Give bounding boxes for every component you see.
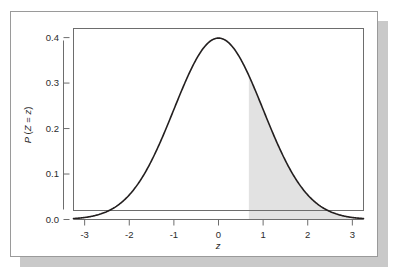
panel-border — [74, 29, 364, 211]
y-tick-label: 0.3 — [46, 77, 59, 88]
x-tick-label: 0 — [216, 229, 221, 240]
y-tick-label: 0.2 — [46, 123, 59, 134]
normal-distribution-chart: 0.00.10.20.30.4 -3-2-10123 z P (Z = z) — [11, 12, 377, 256]
y-tick-label: 0.1 — [46, 168, 59, 179]
x-tick-label: -3 — [80, 229, 88, 240]
x-tick-label: 1 — [260, 229, 265, 240]
shaded-tail-region — [249, 76, 364, 220]
y-axis-ticks: 0.00.10.20.30.4 — [46, 32, 70, 225]
y-axis-title: P (Z = z) — [22, 107, 33, 144]
x-tick-label: -2 — [125, 229, 133, 240]
x-axis-title: z — [215, 240, 221, 251]
y-tick-label: 0.0 — [46, 214, 59, 225]
x-tick-label: 2 — [305, 229, 310, 240]
density-curve — [74, 38, 364, 219]
y-tick-label: 0.4 — [46, 32, 59, 43]
plot-area: 0.00.10.20.30.4 -3-2-10123 z P (Z = z) — [11, 12, 377, 256]
x-tick-label: 3 — [350, 229, 355, 240]
x-axis-ticks: -3-2-10123 — [80, 220, 355, 241]
figure-frame: 0.00.10.20.30.4 -3-2-10123 z P (Z = z) — [10, 11, 378, 257]
y-axis-title-group: P (Z = z) — [22, 107, 33, 144]
x-tick-label: -1 — [170, 229, 178, 240]
figure-root: 0.00.10.20.30.4 -3-2-10123 z P (Z = z) — [0, 0, 402, 275]
